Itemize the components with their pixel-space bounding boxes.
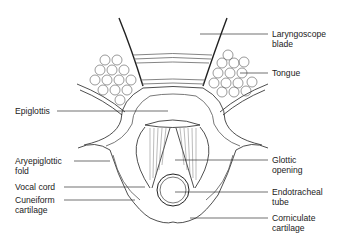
label-aryepiglottic-fold: Aryepiglottic fold [15,156,62,176]
endotracheal-tube [157,174,189,206]
label-glottic-opening: Glottic opening [272,155,303,175]
aryepiglottic-fold [78,144,268,222]
label-laryngoscope-blade: Laryngoscope blade [272,29,326,49]
label-tongue: Tongue [272,68,300,78]
label-cuneiform-cartilage: Cuneiform cartilage [15,195,55,215]
laryngoscope-blade [119,18,227,86]
tongue [77,50,268,115]
label-vocal-cord: Vocal cord [15,182,55,192]
label-epiglottis: Epiglottis [15,106,50,116]
label-endotracheal-tube: Endotracheal tube [272,187,323,207]
epiglottis [84,87,262,147]
vocal-cords [136,127,209,188]
label-corniculate-cartilage: Corniculate cartilage [272,213,315,233]
